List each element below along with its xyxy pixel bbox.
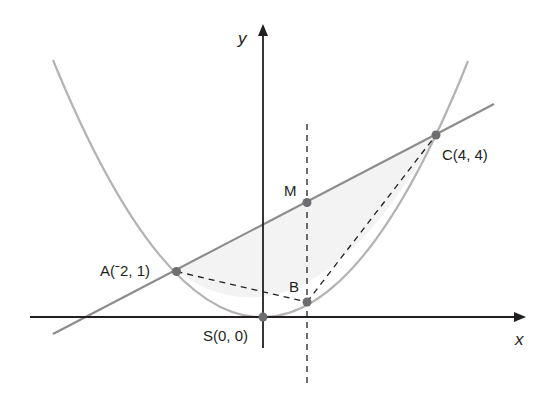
- point-s: [259, 313, 268, 322]
- label-b: B: [289, 278, 299, 295]
- parabola-diagram: y x A(ˉ2, 1) C(4, 4) S(0, 0) M B: [0, 0, 550, 403]
- shaded-area: [177, 135, 437, 298]
- point-c: [432, 131, 441, 140]
- point-m: [303, 198, 312, 207]
- line-ac: [53, 104, 494, 334]
- label-s: S(0, 0): [203, 327, 248, 344]
- point-a: [172, 267, 181, 276]
- x-axis-label: x: [514, 330, 524, 349]
- label-c: C(4, 4): [442, 146, 488, 163]
- label-m: M: [284, 182, 297, 199]
- point-b: [303, 298, 312, 307]
- y-axis-label: y: [237, 29, 248, 48]
- label-a: A(ˉ2, 1): [100, 262, 150, 279]
